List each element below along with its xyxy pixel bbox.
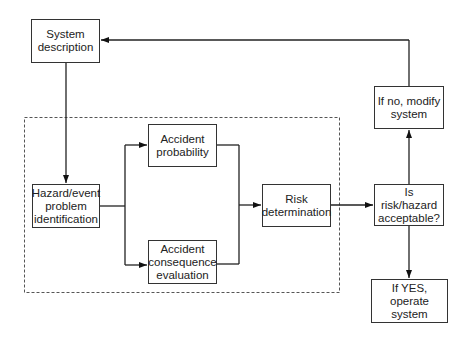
node-modify-system: If no, modify system xyxy=(374,86,444,129)
node-label: Accident probability xyxy=(156,133,208,159)
node-risk-determination: Risk determination xyxy=(262,184,331,227)
node-accident-consequence: Accident consequence evaluation xyxy=(148,240,217,284)
node-accident-probability: Accident probability xyxy=(148,124,217,167)
node-label: Is risk/hazard acceptable? xyxy=(375,186,443,225)
node-hazard-identification: Hazard/event problem identification xyxy=(32,184,100,228)
node-label: If no, modify system xyxy=(378,95,441,121)
node-system-description: System description xyxy=(31,19,100,63)
node-label: If YES, operate system xyxy=(372,282,447,321)
node-label: Risk determination xyxy=(262,193,332,219)
node-label: Accident consequence evaluation xyxy=(148,243,216,282)
node-label: System description xyxy=(38,28,94,54)
node-label: Hazard/event problem identification xyxy=(32,187,100,226)
node-operate-system: If YES, operate system xyxy=(371,279,448,323)
node-risk-acceptable: Is risk/hazard acceptable? xyxy=(374,184,444,226)
